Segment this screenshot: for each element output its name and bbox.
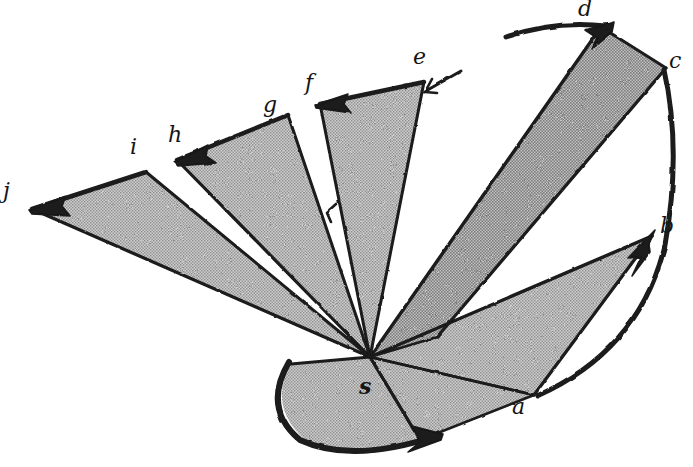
label-e: e [413, 46, 426, 68]
label-c: c [669, 50, 681, 72]
label-f: f [305, 72, 313, 94]
label-s: s [359, 375, 371, 397]
label-h: h [168, 124, 182, 146]
label-d: d [578, 0, 592, 20]
fan-wedge-diagram [0, 0, 693, 467]
label-i: i [130, 136, 137, 158]
label-g: g [263, 94, 277, 116]
label-a: a [512, 396, 525, 418]
label-j: j [3, 180, 10, 202]
label-b: b [660, 215, 674, 237]
